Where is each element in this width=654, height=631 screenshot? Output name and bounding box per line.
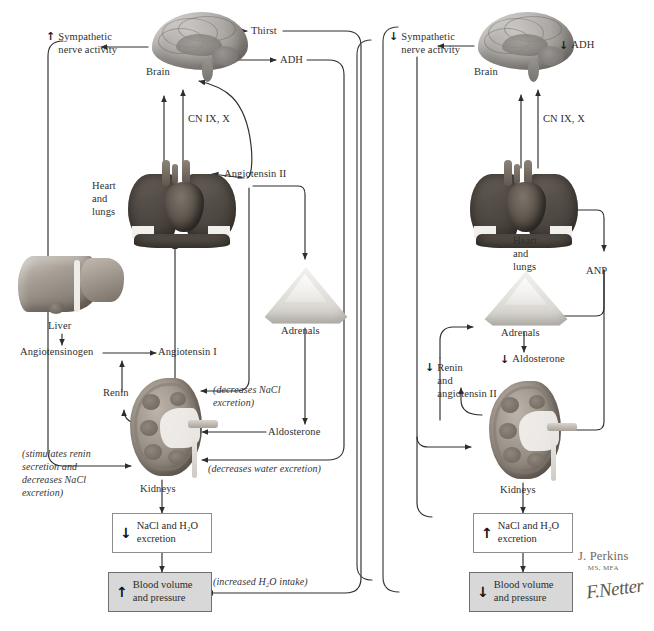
nacl-excretion-text-left: NaCl and H₂O excretion — [137, 520, 198, 545]
renin-text-right: Renin and angiotensin II — [437, 362, 496, 400]
up-arrow-icon: ↑ — [481, 526, 493, 540]
label-kidneys-left: Kidneys — [140, 483, 176, 495]
figure-canvas: ↑ Sympathetic nerve activity Brain Thirs… — [0, 0, 654, 631]
down-arrow-icon: ↓ — [425, 362, 434, 373]
note-increased-intake: (increased H₂O intake) — [213, 576, 308, 588]
down-arrow-icon: ↓ — [389, 31, 398, 42]
adrenal-illustration-left — [262, 266, 350, 324]
label-renin-angiotensin-right: ↓ Renin and angiotensin II — [425, 362, 497, 400]
down-arrow-icon: ↓ — [120, 526, 132, 540]
heart-lungs-illustration-left — [128, 160, 238, 248]
label-adh-right: ↓ ADH — [559, 39, 594, 51]
blood-volume-text-left: Blood volume and pressure — [133, 579, 193, 604]
label-heart-lungs-left: Heart and lungs — [92, 180, 116, 218]
adrenal-illustration-right — [482, 270, 570, 326]
down-arrow-icon: ↓ — [559, 40, 568, 51]
label-aldosterone-left: Aldosterone — [268, 426, 320, 438]
adh-text-right: ADH — [571, 39, 594, 51]
down-arrow-icon: ↓ — [477, 585, 489, 599]
label-thirst: Thirst — [251, 25, 277, 37]
liver-illustration — [18, 248, 126, 320]
label-adrenals-left: Adrenals — [281, 325, 320, 337]
label-aldosterone-right: ↓ Aldosterone — [500, 353, 565, 365]
artist-degrees: MS, MFA — [578, 564, 629, 572]
label-cn-left: CN IX, X — [188, 113, 230, 125]
sympathetic-text: Sympathetic nerve activity — [58, 31, 117, 56]
up-arrow-icon: ↑ — [46, 31, 55, 42]
note-stimulates-renin: (stimulates renin secretion and decrease… — [22, 447, 91, 499]
netter-signature: F.Netter — [585, 575, 645, 604]
label-angiotensin-1: Angiotensin I — [158, 346, 217, 358]
artist-name: J. Perkins — [578, 549, 629, 563]
label-kidneys-right: Kidneys — [500, 484, 536, 496]
label-liver: Liver — [48, 320, 71, 332]
netter-name: Netter — [598, 575, 645, 601]
up-arrow-icon: ↑ — [116, 585, 128, 599]
sympathetic-text-right: Sympathetic nerve activity — [401, 31, 460, 56]
label-sympathetic-left: ↑ Sympathetic nerve activity — [46, 31, 117, 56]
note-decreases-nacl: (decreases NaCl excretion) — [213, 384, 281, 410]
label-angiotensinogen: Angiotensinogen — [20, 346, 93, 358]
label-brain-right: Brain — [474, 66, 498, 78]
nacl-excretion-box-left: ↓ NaCl and H₂O excretion — [112, 513, 212, 553]
label-angiotensin-2-left: Angiotensin II — [224, 168, 286, 180]
blood-volume-text-right: Blood volume and pressure — [494, 579, 554, 604]
label-adrenals-right: Adrenals — [501, 327, 540, 339]
label-heart-lungs-right: Heart and lungs — [513, 235, 537, 273]
nacl-excretion-text-right: NaCl and H₂O excretion — [498, 520, 559, 545]
label-adh-left: ADH — [280, 54, 303, 66]
kidney-illustration-left — [130, 378, 218, 478]
nacl-excretion-box-right: ↑ NaCl and H₂O excretion — [473, 513, 573, 553]
note-decreases-water: (decreases water excretion) — [208, 463, 321, 475]
down-arrow-icon: ↓ — [500, 354, 509, 365]
blood-volume-box-right: ↓ Blood volume and pressure — [469, 572, 573, 612]
label-sympathetic-right: ↓ Sympathetic nerve activity — [389, 31, 460, 56]
label-brain-left: Brain — [146, 66, 170, 78]
kidney-illustration-right — [489, 381, 577, 481]
artist-credit: J. Perkins MS, MFA — [578, 546, 629, 572]
blood-volume-box-left: ↑ Blood volume and pressure — [108, 572, 212, 612]
label-cn-right: CN IX, X — [543, 113, 585, 125]
label-anp: ANP — [586, 265, 607, 277]
aldosterone-text-right: Aldosterone — [512, 353, 564, 365]
label-renin-left: Renin — [103, 387, 129, 399]
